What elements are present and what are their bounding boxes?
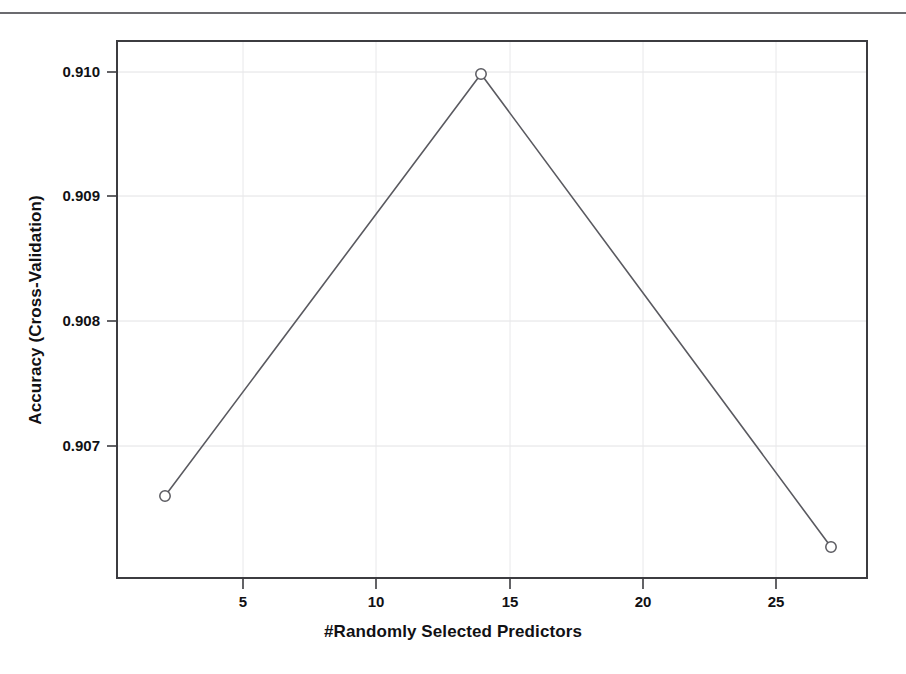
x-tick-label-15: 15 (480, 593, 540, 610)
data-point-3 (826, 542, 836, 552)
plot-panel-background (117, 41, 867, 578)
y-axis-tick-marks (107, 72, 117, 446)
x-tick-label-10: 10 (346, 593, 406, 610)
x-tick-label-20: 20 (613, 593, 673, 610)
x-axis-title: #Randomly Selected Predictors (0, 622, 906, 642)
y-axis-title: Accuracy (Cross-Validation) (26, 160, 46, 460)
x-tick-label-25: 25 (746, 593, 806, 610)
x-axis-tick-marks (243, 578, 776, 589)
figure-page: 0.910 0.909 0.908 0.907 5 10 15 20 25 #R… (0, 0, 906, 674)
accuracy-line-chart: 0.910 0.909 0.908 0.907 5 10 15 20 25 #R… (0, 0, 906, 674)
data-point-1 (160, 491, 170, 501)
x-tick-label-5: 5 (213, 593, 273, 610)
y-tick-label-0.910: 0.910 (30, 63, 100, 80)
plot-canvas (0, 0, 906, 674)
data-point-2 (476, 69, 486, 79)
